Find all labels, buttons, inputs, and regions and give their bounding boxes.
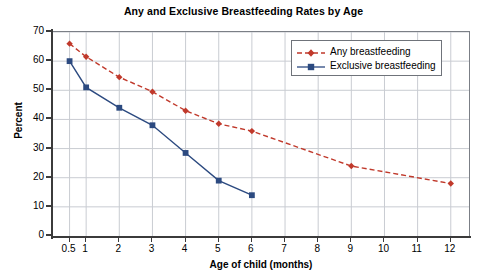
y-tick-mark bbox=[46, 59, 52, 61]
x-tick-mark bbox=[317, 237, 318, 242]
legend-item-any-breastfeeding[interactable]: Any breastfeeding bbox=[296, 44, 436, 58]
x-axis-title: Age of child (months) bbox=[52, 259, 470, 270]
x-tick-mark bbox=[69, 237, 70, 242]
x-tick-label: 4 bbox=[170, 243, 200, 254]
x-tick-mark bbox=[251, 237, 252, 242]
y-tick-label: 10 bbox=[14, 200, 44, 211]
y-tick-mark bbox=[46, 30, 52, 32]
x-tick-label: 9 bbox=[335, 243, 365, 254]
x-tick-label: 10 bbox=[368, 243, 398, 254]
y-tick-mark bbox=[46, 88, 52, 90]
x-tick-mark bbox=[350, 237, 351, 242]
legend-label-exclusive-breastfeeding: Exclusive breastfeeding bbox=[330, 60, 436, 71]
x-tick-mark bbox=[218, 237, 219, 242]
y-tick-label: 20 bbox=[14, 171, 44, 182]
x-tick-mark bbox=[284, 237, 285, 242]
x-tick-label: 8 bbox=[302, 243, 332, 254]
y-tick-mark bbox=[46, 117, 52, 119]
x-tick-mark bbox=[151, 237, 152, 242]
chart-legend: Any breastfeeding Exclusive breastfeedin… bbox=[291, 40, 442, 76]
chart-title: Any and Exclusive Breastfeeding Rates by… bbox=[0, 5, 487, 17]
x-tick-label: 6 bbox=[236, 243, 266, 254]
x-tick-mark bbox=[85, 237, 86, 242]
x-tick-label: 2 bbox=[103, 243, 133, 254]
y-tick-mark bbox=[46, 147, 52, 149]
y-tick-mark bbox=[46, 234, 52, 236]
y-tick-label: 60 bbox=[14, 54, 44, 65]
y-tick-mark bbox=[46, 176, 52, 178]
y-axis-title: Percent bbox=[13, 81, 24, 161]
y-tick-mark bbox=[46, 205, 52, 207]
x-tick-label: 11 bbox=[402, 243, 432, 254]
x-tick-label: 3 bbox=[136, 243, 166, 254]
y-tick-label: 0 bbox=[14, 229, 44, 240]
legend-item-exclusive-breastfeeding[interactable]: Exclusive breastfeeding bbox=[296, 58, 436, 72]
x-tick-mark bbox=[383, 237, 384, 242]
x-tick-mark bbox=[417, 237, 418, 242]
y-tick-label: 70 bbox=[14, 25, 44, 36]
x-axis-line bbox=[51, 236, 471, 238]
breastfeeding-rates-chart-figure: Any and Exclusive Breastfeeding Rates by… bbox=[0, 0, 487, 279]
legend-label-any-breastfeeding: Any breastfeeding bbox=[330, 46, 411, 57]
x-tick-label: 12 bbox=[435, 243, 465, 254]
x-tick-label: 7 bbox=[269, 243, 299, 254]
legend-swatch-dashed-diamond-icon bbox=[296, 45, 326, 57]
x-tick-label: 1 bbox=[70, 243, 100, 254]
x-tick-mark bbox=[118, 237, 119, 242]
x-tick-label: 5 bbox=[203, 243, 233, 254]
x-tick-mark bbox=[185, 237, 186, 242]
x-tick-mark bbox=[450, 237, 451, 242]
legend-swatch-solid-square-icon bbox=[296, 59, 326, 71]
